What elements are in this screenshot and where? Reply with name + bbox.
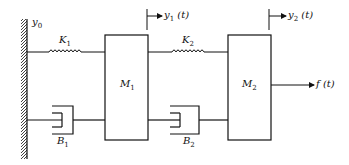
damper-b1-label: B1 [57,135,69,149]
damper-b2 [148,106,228,134]
spring-k1 [27,50,105,52]
displacement-arrow-y2 [269,9,286,30]
mass-m1-label: M1 [120,78,135,92]
fixed-wall [21,19,27,159]
spring-k1-label: K1 [59,34,71,48]
displacement-y1-label: y1 (t) [164,9,189,23]
displacement-arrow-y1 [147,9,162,30]
spring-k2-label: K2 [182,34,194,48]
force-label: f (t) [316,78,335,89]
damper-b1 [27,106,105,134]
displacement-y2-label: y2 (t) [288,9,313,23]
mass-spring-damper-diagram [0,0,349,165]
wall-label: y0 [32,16,42,30]
mass-m2-label: M2 [242,78,257,92]
spring-k2 [148,50,228,52]
damper-b2-label: B2 [183,135,195,149]
